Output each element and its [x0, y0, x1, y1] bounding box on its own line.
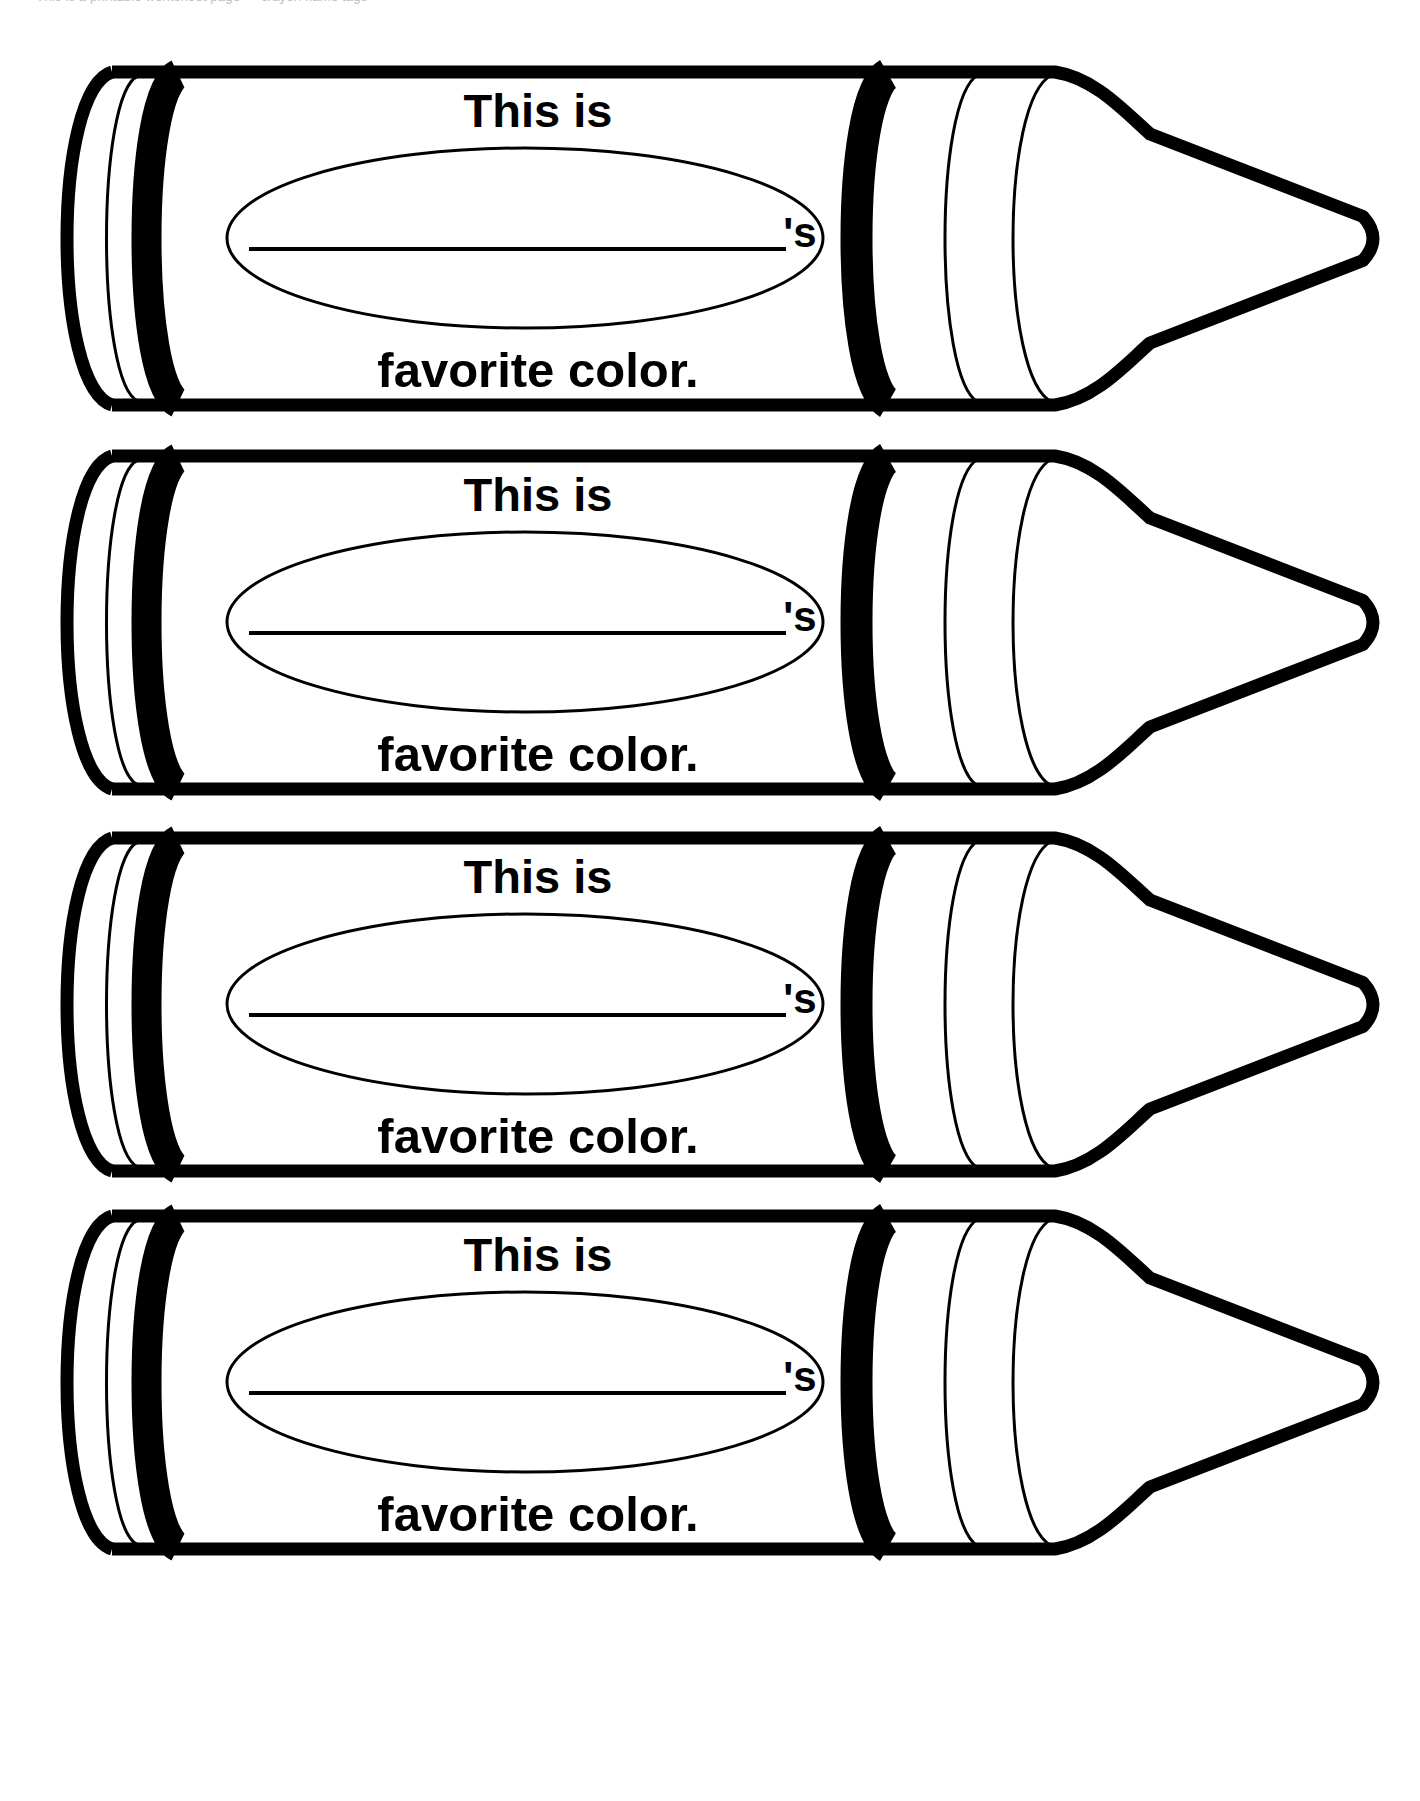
possessive-text: 's	[783, 209, 816, 256]
line-2-text: favorite color.	[377, 1487, 698, 1541]
line-1-text: This is	[464, 850, 613, 903]
line-2-text: favorite color.	[377, 1109, 698, 1163]
worksheet-page: This is a printable worksheet page — cra…	[0, 0, 1420, 1801]
crayon-right-ridge-2	[1013, 459, 1052, 786]
line-2-text: favorite color.	[377, 727, 698, 781]
possessive-text: 's	[783, 593, 816, 640]
name-oval	[227, 148, 823, 328]
crayon-left-band	[147, 1218, 179, 1547]
crayon-left-band	[147, 840, 179, 1169]
crayon-right-ridge-1	[945, 1219, 978, 1546]
crayon-right-band	[857, 74, 889, 403]
crayon-body-outline	[112, 456, 1373, 789]
crayon-name-tag[interactable]: This is'sfavorite color.	[0, 818, 1420, 1208]
name-oval	[227, 532, 823, 712]
crayon-right-band	[857, 1218, 889, 1547]
crayon-right-band	[857, 458, 889, 787]
crayon-name-tag[interactable]: This is'sfavorite color.	[0, 52, 1420, 442]
name-oval	[227, 914, 823, 1094]
crayon-right-ridge-1	[945, 841, 978, 1168]
possessive-text: 's	[783, 975, 816, 1022]
line-1-text: This is	[464, 1228, 613, 1281]
crayon-right-ridge-2	[1013, 841, 1052, 1168]
crayon-body-outline	[112, 1216, 1373, 1549]
crayon-body-outline	[112, 72, 1373, 405]
line-2-text: favorite color.	[377, 343, 698, 397]
crayon-name-tag[interactable]: This is'sfavorite color.	[0, 436, 1420, 826]
crayon-right-ridge-2	[1013, 75, 1052, 402]
crayon-list: This is'sfavorite color.This is'sfavorit…	[0, 0, 1420, 1801]
crayon-left-band	[147, 458, 179, 787]
crayon-right-ridge-1	[945, 75, 978, 402]
line-1-text: This is	[464, 84, 613, 137]
crayon-right-ridge-2	[1013, 1219, 1052, 1546]
name-oval	[227, 1292, 823, 1472]
crayon-left-band	[147, 74, 179, 403]
possessive-text: 's	[783, 1353, 816, 1400]
crayon-right-ridge-1	[945, 459, 978, 786]
crayon-name-tag[interactable]: This is'sfavorite color.	[0, 1196, 1420, 1586]
crayon-body-outline	[112, 838, 1373, 1171]
crayon-right-band	[857, 840, 889, 1169]
line-1-text: This is	[464, 468, 613, 521]
